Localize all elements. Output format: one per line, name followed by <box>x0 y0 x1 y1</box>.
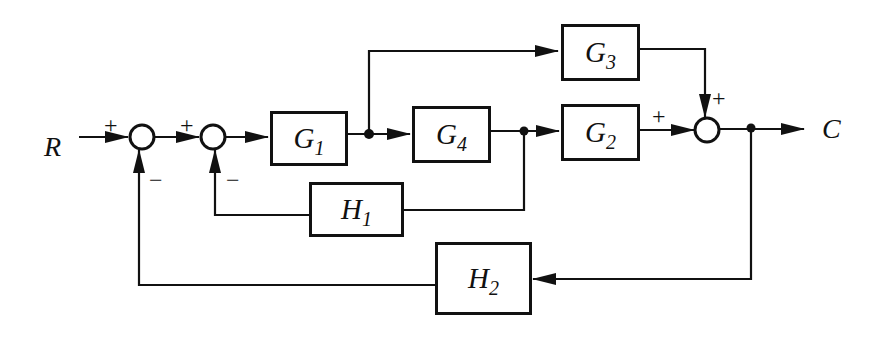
s3-plus-left-sign: + <box>652 104 666 128</box>
line-g3-to-s3 <box>639 49 705 117</box>
takeoff-point-output <box>747 124 756 133</box>
summing-junction-2 <box>201 125 225 149</box>
block-g4: G4 <box>412 106 491 163</box>
summing-junction-1 <box>130 125 154 149</box>
block-g4-base: G <box>436 118 457 150</box>
block-h2-base: H <box>468 262 489 294</box>
s2-minus-sign: − <box>226 168 240 192</box>
takeoff-point-g1 <box>364 129 374 139</box>
s2-plus-sign: + <box>180 113 194 137</box>
block-g3: G3 <box>561 24 640 81</box>
summing-junction-3 <box>695 118 719 142</box>
block-h1-base: H <box>341 193 362 225</box>
block-g4-sub: 4 <box>457 133 467 155</box>
block-diagram: R C + − + − + + G1 G4 G2 G3 H1 H2 <box>0 0 882 340</box>
block-h1: H1 <box>309 182 404 237</box>
block-g1: G1 <box>270 111 348 166</box>
block-g1-base: G <box>294 122 315 154</box>
block-g2-base: G <box>585 116 606 148</box>
block-g2-sub: 2 <box>606 131 616 153</box>
block-h2-sub: 2 <box>489 277 499 299</box>
s3-plus-top-sign: + <box>712 86 726 110</box>
block-g1-sub: 1 <box>314 137 324 159</box>
output-label: C <box>822 115 841 143</box>
block-g3-sub: 3 <box>606 51 616 73</box>
block-h1-sub: 1 <box>362 208 372 230</box>
block-g2: G2 <box>561 104 640 161</box>
takeoff-point-g4 <box>520 127 529 136</box>
s1-plus-sign: + <box>104 113 118 137</box>
s1-minus-sign: − <box>149 168 163 192</box>
block-g3-base: G <box>585 36 606 68</box>
input-label: R <box>44 133 61 161</box>
block-h2: H2 <box>435 242 532 315</box>
